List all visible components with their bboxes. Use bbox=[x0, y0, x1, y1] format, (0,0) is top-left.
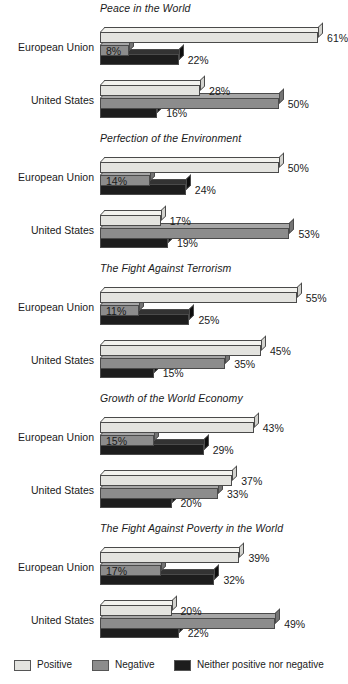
bar-value-label: 49% bbox=[284, 618, 305, 630]
bar-positive bbox=[100, 475, 232, 486]
bar-group: European Union39%17%32% bbox=[0, 544, 347, 592]
panel-title: The Fight Against Terrorism bbox=[100, 262, 231, 274]
bar-end-cap bbox=[261, 335, 266, 351]
bar-group: European Union50%14%24% bbox=[0, 154, 347, 202]
bar-value-label: 19% bbox=[177, 237, 198, 249]
bar-group: European Union61%8%22% bbox=[0, 24, 347, 72]
bar-value-label: 22% bbox=[188, 54, 209, 66]
bar-value-label: 33% bbox=[227, 488, 248, 500]
bar-front-face bbox=[100, 345, 261, 356]
bar-group: European Union55%11%25% bbox=[0, 284, 347, 332]
bar-value-label: 45% bbox=[270, 345, 291, 357]
bar-value-label: 25% bbox=[198, 314, 219, 326]
group-label-united-states: United States bbox=[0, 354, 94, 366]
group-label-european-union: European Union bbox=[0, 431, 94, 443]
chart-panel: The Fight Against TerrorismEuropean Unio… bbox=[0, 262, 347, 390]
bar-value-label: 32% bbox=[223, 574, 244, 586]
legend-label: Neither positive nor negative bbox=[197, 659, 324, 670]
bar-end-cap bbox=[214, 564, 219, 580]
bar-positive bbox=[100, 85, 200, 96]
bar-group: United States17%53%19% bbox=[0, 207, 347, 255]
bar-positive bbox=[100, 422, 254, 433]
bar-value-label: 14% bbox=[106, 175, 127, 187]
legend-swatch-positive bbox=[14, 660, 31, 671]
bar-end-cap bbox=[279, 88, 284, 104]
bar-value-label: 43% bbox=[263, 422, 284, 434]
bar-value-label: 16% bbox=[166, 107, 187, 119]
group-label-united-states: United States bbox=[0, 614, 94, 626]
bar-negative bbox=[100, 98, 279, 109]
bar-value-label: 55% bbox=[306, 292, 327, 304]
bar-front-face bbox=[100, 605, 172, 616]
bar-end-cap bbox=[254, 412, 259, 428]
group-label-european-union: European Union bbox=[0, 171, 94, 183]
chart-panel: The Fight Against Poverty in the WorldEu… bbox=[0, 522, 347, 650]
bar-front-face bbox=[100, 32, 318, 43]
group-label-european-union: European Union bbox=[0, 301, 94, 313]
bar-value-label: 37% bbox=[241, 475, 262, 487]
bar-value-label: 17% bbox=[106, 565, 127, 577]
bar-value-label: 17% bbox=[170, 215, 191, 227]
panel-title: Peace in the World bbox=[100, 2, 191, 14]
bar-value-label: 35% bbox=[234, 358, 255, 370]
bar-value-label: 15% bbox=[106, 435, 127, 447]
bar-value-label: 39% bbox=[248, 552, 269, 564]
bar-positive bbox=[100, 605, 172, 616]
group-label-united-states: United States bbox=[0, 94, 94, 106]
legend-label: Positive bbox=[37, 659, 72, 670]
bar-end-cap bbox=[279, 152, 284, 168]
chart-panel: Perfection of the EnvironmentEuropean Un… bbox=[0, 132, 347, 260]
panel-title: Perfection of the Environment bbox=[100, 132, 241, 144]
bar-end-cap bbox=[179, 44, 184, 60]
bar-value-label: 11% bbox=[106, 305, 126, 317]
bar-value-label: 22% bbox=[188, 627, 209, 639]
bar-group: United States20%49%22% bbox=[0, 597, 347, 645]
bar-positive bbox=[100, 345, 261, 356]
bar-positive bbox=[100, 292, 297, 303]
bar-value-label: 20% bbox=[181, 605, 202, 617]
panel-title: Growth of the World Economy bbox=[100, 392, 243, 404]
bar-end-cap bbox=[239, 542, 244, 558]
bar-front-face bbox=[100, 85, 200, 96]
bar-front-face bbox=[100, 215, 161, 226]
bar-value-label: 15% bbox=[163, 367, 184, 379]
chart-panel: Growth of the World EconomyEuropean Unio… bbox=[0, 392, 347, 520]
bar-end-cap bbox=[318, 22, 323, 38]
bar-end-cap bbox=[161, 205, 166, 221]
bar-group: United States37%33%20% bbox=[0, 467, 347, 515]
group-label-united-states: United States bbox=[0, 484, 94, 496]
bar-value-label: 20% bbox=[181, 497, 202, 509]
group-label-united-states: United States bbox=[0, 224, 94, 236]
bar-end-cap bbox=[189, 304, 194, 320]
group-label-european-union: European Union bbox=[0, 41, 94, 53]
bar-value-label: 29% bbox=[213, 444, 234, 456]
bar-group: European Union43%15%29% bbox=[0, 414, 347, 462]
bar-group: United States28%50%16% bbox=[0, 77, 347, 125]
chart-panel: Peace in the WorldEuropean Union61%8%22%… bbox=[0, 2, 347, 130]
bar-front-face bbox=[100, 292, 297, 303]
bar-end-cap bbox=[186, 174, 191, 190]
legend-swatch-negative bbox=[92, 660, 109, 671]
bar-value-label: 28% bbox=[209, 85, 230, 97]
bar-value-label: 50% bbox=[288, 98, 309, 110]
bar-value-label: 24% bbox=[195, 184, 216, 196]
bar-positive bbox=[100, 162, 279, 173]
bar-end-cap bbox=[289, 218, 294, 234]
bar-front-face bbox=[100, 422, 254, 433]
bar-end-cap bbox=[275, 608, 280, 624]
panel-title: The Fight Against Poverty in the World bbox=[100, 522, 283, 534]
bar-end-cap bbox=[200, 75, 205, 91]
bar-front-face bbox=[100, 162, 279, 173]
bar-value-label: 61% bbox=[327, 32, 348, 44]
bar-positive bbox=[100, 32, 318, 43]
bar-positive bbox=[100, 215, 161, 226]
bar-end-cap bbox=[204, 434, 209, 450]
bar-value-label: 8% bbox=[106, 45, 121, 57]
legend-label: Negative bbox=[115, 659, 154, 670]
bar-group: United States45%35%15% bbox=[0, 337, 347, 385]
bar-value-label: 50% bbox=[288, 162, 309, 174]
bar-front-face bbox=[100, 98, 279, 109]
bar-end-cap bbox=[297, 282, 302, 298]
bar-front-face bbox=[100, 475, 232, 486]
